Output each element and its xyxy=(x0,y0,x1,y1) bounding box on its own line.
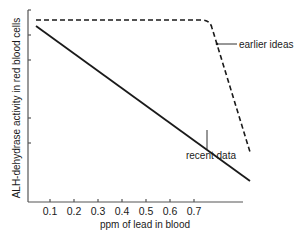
x-tick-label: 0.6 xyxy=(163,205,178,217)
series-earlier-ideas xyxy=(36,20,250,152)
y-axis-title: ALH-dehydrase activity in red blood cell… xyxy=(11,18,22,199)
annotation-earlier-ideas: earlier ideas xyxy=(216,39,294,50)
x-tick-label: 0.3 xyxy=(91,205,106,217)
annotation-recent-data: recent data xyxy=(186,130,236,161)
annotation-label: earlier ideas xyxy=(239,39,293,50)
x-tick-label: 0.4 xyxy=(115,205,130,217)
x-tick-label: 0.7 xyxy=(187,205,202,217)
x-tick-label: 0.5 xyxy=(139,205,154,217)
axes xyxy=(28,10,243,202)
x-axis-title: ppm of lead in blood xyxy=(100,219,190,230)
x-tick-label: 0.1 xyxy=(43,205,58,217)
x-tick-label: 0.2 xyxy=(67,205,82,217)
x-tick-labels: 0.1 0.2 0.3 0.4 0.5 0.6 0.7 xyxy=(43,205,202,217)
chart: 0.1 0.2 0.3 0.4 0.5 0.6 0.7 ppm of lead … xyxy=(0,0,294,233)
annotation-label: recent data xyxy=(186,150,236,161)
